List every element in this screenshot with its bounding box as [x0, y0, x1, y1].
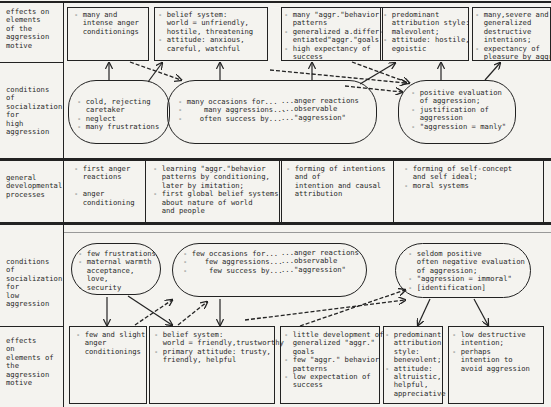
- high-effect-box-2: - belief system: world = unfriendly, hos…: [154, 7, 268, 61]
- general-box-1: - first anger reactions - anger conditio…: [64, 161, 146, 222]
- low-effect-box-5: - low destructive intention; - perhaps i…: [448, 326, 544, 404]
- divider-low-effects: [0, 326, 64, 327]
- high-condition-pill-3: - positive evaluation of aggression; - j…: [398, 80, 516, 144]
- row-label-high-conditions: conditions of socialization for high agg…: [6, 86, 62, 136]
- low-condition-pill-2-cont: ...anger reactions ...observable ..."agg…: [281, 249, 359, 274]
- divider-general-bottom: [0, 222, 551, 225]
- low-effect-box-4: - predominant attribution style: benevol…: [383, 326, 443, 404]
- high-effect-box-5: - many,severe and generalized destructiv…: [472, 7, 551, 61]
- row-label-high-effects: effects on elements of the aggression mo…: [6, 8, 49, 50]
- general-box-3: - forming of intentions and of intention…: [281, 161, 394, 222]
- row-label-general: general developmental processes: [6, 174, 62, 199]
- low-condition-pill-1: - few frustrations - maternal warmth acc…: [71, 243, 161, 295]
- top-border: [0, 1, 551, 3]
- high-effect-box-3: - many "aggr."behavior patterns - genera…: [281, 7, 383, 61]
- low-condition-pill-3: - seldom positive often negative evaluat…: [395, 243, 531, 298]
- high-effect-box-1: - many and intense anger conditionings: [67, 7, 149, 61]
- low-effect-box-1: - few and slight anger conditionings: [69, 326, 147, 404]
- low-effect-box-3: - little development of generalized "agg…: [280, 326, 380, 404]
- general-box-4: - forming of self-concept and self ideal…: [394, 161, 544, 222]
- row-label-low-conditions: conditions of socialization for low aggr…: [6, 258, 62, 308]
- row-label-low-effects: effects on elements of the aggression mo…: [6, 337, 54, 387]
- divider-low-conditions-top: [64, 232, 551, 233]
- low-effect-box-2: - belief system: world = friendly,trustw…: [149, 326, 275, 404]
- high-effect-box-4: - predominant attribution style: malevol…: [380, 7, 469, 61]
- high-condition-pill-1: - cold, rejecting caretaker - neglect - …: [68, 80, 170, 144]
- divider-high-effects: [0, 62, 64, 63]
- high-condition-pill-2-cont: ...anger reactions ...observable ..."agg…: [281, 97, 359, 122]
- general-box-2: - learning "aggr."behavior patterns by c…: [146, 161, 280, 222]
